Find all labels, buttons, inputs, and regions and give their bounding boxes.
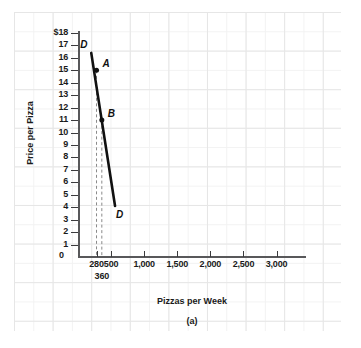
- point-label-b: B: [108, 108, 115, 119]
- point-marker-b: [99, 118, 104, 123]
- point-marker-a: [94, 68, 99, 73]
- y-axis-title: Price per Pizza: [25, 78, 35, 188]
- curve-label-bottom: D: [116, 209, 123, 220]
- x-axis-title: Pizzas per Week: [78, 296, 306, 306]
- curve-group: [91, 53, 115, 206]
- plot-area: $1817161514131211109876543210 2803605001…: [0, 0, 361, 348]
- curve-label-top: D: [80, 39, 87, 50]
- point-label-a: A: [103, 58, 110, 69]
- panel-caption: (a): [78, 316, 306, 326]
- demand-curve-line: [91, 53, 115, 206]
- demand-curve-figure: $1817161514131211109876543210 2803605001…: [0, 0, 361, 348]
